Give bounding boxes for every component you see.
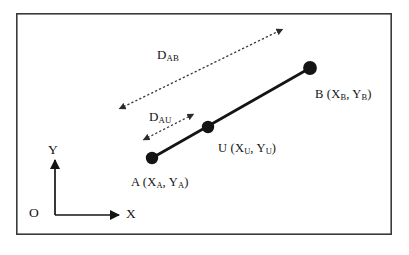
point-label-a-end: ) bbox=[184, 175, 188, 189]
point-label-b: B (XB, YB) bbox=[315, 88, 372, 101]
origin-label: O bbox=[29, 206, 39, 220]
point-a-marker bbox=[146, 152, 158, 164]
point-label-b-text: B (X bbox=[315, 87, 340, 101]
point-label-u-mid: , Y bbox=[250, 141, 265, 155]
geometry-diagram: O X Y DAB DAU A (XA, YA) U (XU, YU) B (X… bbox=[0, 0, 409, 255]
distance-label-dau: DAU bbox=[149, 110, 171, 124]
point-label-b-end: ) bbox=[367, 87, 371, 101]
point-label-u: U (XU, YU) bbox=[218, 142, 276, 155]
x-axis-label: X bbox=[126, 207, 136, 221]
y-axis-label: Y bbox=[48, 143, 58, 157]
point-label-u-text: U (X bbox=[218, 141, 244, 155]
distance-label-dab: DAB bbox=[157, 48, 179, 62]
point-label-u-end: ) bbox=[272, 141, 276, 155]
point-label-a: A (XA, YA) bbox=[131, 176, 189, 189]
point-b-marker bbox=[303, 61, 317, 75]
distance-label-dau-subscript: AU bbox=[159, 115, 172, 125]
point-label-b-mid: , Y bbox=[346, 87, 361, 101]
point-u-marker bbox=[202, 121, 214, 133]
point-label-a-text: A (X bbox=[131, 175, 156, 189]
distance-label-dau-text: D bbox=[149, 109, 159, 124]
diagram-canvas bbox=[0, 0, 409, 255]
distance-label-dab-subscript: AB bbox=[167, 53, 179, 63]
distance-label-dab-text: D bbox=[157, 47, 167, 62]
point-label-a-mid: , Y bbox=[163, 175, 178, 189]
